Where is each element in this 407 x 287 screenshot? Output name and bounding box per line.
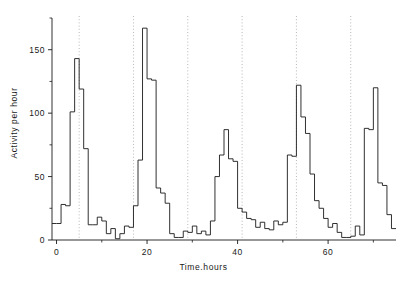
x-tick-label: 40 [232,247,242,257]
y-axis-title: Activity per hour [9,78,19,168]
y-tick-label: 100 [29,108,45,118]
y-axis-ticks [48,18,52,240]
x-axis-ticks [57,240,374,244]
activity-chart-figure: 050100150 0204060 Activity per hour Time… [0,0,407,287]
axis-lines [52,18,396,240]
chart-plot-area: 050100150 0204060 [0,0,407,287]
x-tick-label: 20 [142,247,152,257]
y-tick-label: 50 [35,172,45,182]
y-tick-label: 0 [40,235,45,245]
x-axis-title: Time.hours [0,262,407,272]
x-tick-label: 0 [54,247,59,257]
activity-step-trace [52,28,396,239]
x-tick-label: 60 [323,247,333,257]
y-tick-label: 150 [29,45,45,55]
y-axis-tick-labels: 050100150 [29,45,45,245]
x-axis-tick-labels: 0204060 [54,247,333,257]
